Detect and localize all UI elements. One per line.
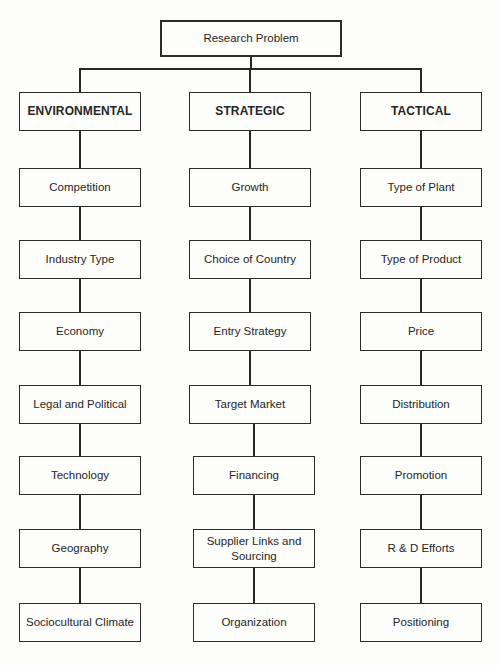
connector-vertical (253, 568, 255, 603)
connector-vertical (420, 568, 422, 603)
root-connector-vertical (250, 57, 252, 68)
factor-node-label: Economy (56, 324, 104, 339)
factor-node-label: Growth (231, 180, 268, 195)
connector-vertical (420, 279, 422, 312)
factor-node: Sociocultural Climate (19, 603, 141, 642)
connector-vertical (420, 424, 422, 456)
factor-node: Organization (193, 603, 315, 642)
factor-node: R & D Efforts (360, 529, 482, 568)
connector-vertical (79, 568, 81, 603)
connector-vertical (249, 207, 251, 240)
category-header-environmental: ENVIRONMENTAL (19, 92, 141, 131)
factor-node: Type of Product (360, 240, 482, 279)
connector-to-header-1 (249, 68, 251, 92)
connector-vertical (249, 131, 251, 168)
category-header-label: STRATEGIC (215, 104, 284, 119)
category-header-strategic: STRATEGIC (189, 92, 311, 131)
connector-vertical (79, 424, 81, 456)
research-problem-hierarchy-diagram: Research Problem ENVIRONMENTALCompetitio… (0, 0, 500, 665)
factor-node-label: Promotion (395, 468, 447, 483)
factor-node-label: Sociocultural Climate (26, 615, 134, 630)
category-header-tactical: TACTICAL (360, 92, 482, 131)
factor-node-label: Industry Type (46, 252, 115, 267)
factor-node: Price (360, 312, 482, 351)
connector-vertical (249, 351, 251, 385)
factor-node-label: Positioning (393, 615, 449, 630)
connector-vertical (249, 279, 251, 312)
factor-node: Target Market (189, 385, 311, 424)
connector-vertical (79, 207, 81, 240)
factor-node-label: Financing (229, 468, 279, 483)
factor-node: Legal and Political (19, 385, 141, 424)
connector-vertical (420, 351, 422, 385)
connector-vertical (420, 495, 422, 529)
factor-node-label: Type of Product (381, 252, 462, 267)
factor-node-label: Geography (52, 541, 109, 556)
factor-node: Distribution (360, 385, 482, 424)
category-header-label: TACTICAL (391, 104, 451, 119)
root-node-research-problem: Research Problem (160, 20, 342, 57)
connector-vertical (253, 424, 255, 456)
factor-node-label: Target Market (215, 397, 285, 412)
connector-to-header-2 (420, 68, 422, 92)
category-header-label: ENVIRONMENTAL (27, 104, 132, 119)
factor-node: Entry Strategy (189, 312, 311, 351)
factor-node: Choice of Country (189, 240, 311, 279)
factor-node-label: Legal and Political (33, 397, 126, 412)
connector-vertical (79, 351, 81, 385)
factor-node-label: Choice of Country (204, 252, 296, 267)
factor-node: Geography (19, 529, 141, 568)
factor-node: Promotion (360, 456, 482, 495)
factor-node: Type of Plant (360, 168, 482, 207)
factor-node-label: Technology (51, 468, 109, 483)
factor-node-label: Price (408, 324, 434, 339)
factor-node-label: Distribution (392, 397, 450, 412)
connector-vertical (79, 131, 81, 168)
factor-node: Technology (19, 456, 141, 495)
connector-vertical (253, 495, 255, 529)
factor-node-label: Competition (49, 180, 110, 195)
factor-node: Industry Type (19, 240, 141, 279)
factor-node: Financing (193, 456, 315, 495)
connector-vertical (79, 279, 81, 312)
factor-node: Economy (19, 312, 141, 351)
factor-node-label: Entry Strategy (214, 324, 287, 339)
connector-to-header-0 (79, 68, 81, 92)
factor-node: Supplier Links and Sourcing (193, 529, 315, 568)
factor-node-label: Organization (221, 615, 286, 630)
connector-vertical (420, 207, 422, 240)
factor-node: Positioning (360, 603, 482, 642)
factor-node-label: Supplier Links and Sourcing (197, 534, 311, 564)
factor-node: Competition (19, 168, 141, 207)
factor-node: Growth (189, 168, 311, 207)
factor-node-label: Type of Plant (387, 180, 454, 195)
connector-vertical (420, 131, 422, 168)
connector-vertical (79, 495, 81, 529)
factor-node-label: R & D Efforts (388, 541, 455, 556)
root-node-label: Research Problem (203, 31, 298, 46)
